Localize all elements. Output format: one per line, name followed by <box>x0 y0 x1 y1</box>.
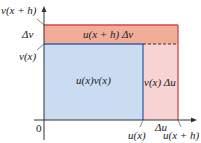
x-axis-arrow-icon <box>191 118 197 123</box>
leader-u-x-h <box>178 120 181 127</box>
product-rule-diagram: v(x + h) Δv v(x) u(x + h) Δv u(x)v(x) v(… <box>0 0 201 143</box>
label-u-x: u(x) <box>128 130 146 141</box>
diagram-graphics <box>0 0 201 143</box>
label-delta-v: Δv <box>22 29 33 40</box>
label-v-x: v(x) <box>19 51 36 62</box>
label-main-region: u(x)v(x) <box>76 75 111 86</box>
leader-v-x <box>37 44 44 50</box>
label-v-x-h: v(x + h) <box>1 5 37 16</box>
label-right-strip: v(x) Δu <box>144 77 176 88</box>
y-axis-arrow-icon <box>42 6 47 12</box>
leader-u-x <box>140 120 143 127</box>
leader-v-x-h <box>37 19 44 25</box>
label-u-x-h: u(x + h) <box>163 130 199 141</box>
label-top-strip: u(x + h) Δv <box>83 29 133 40</box>
label-origin: 0 <box>36 123 42 134</box>
